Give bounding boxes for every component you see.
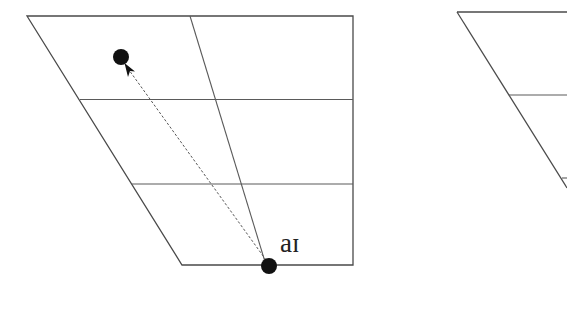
right-vowel-chart-partial — [457, 12, 567, 188]
trapezoid-outline — [27, 16, 353, 265]
center-gridline — [190, 16, 266, 265]
start-vowel-dot — [261, 258, 277, 274]
left-vowel-chart: aɪ — [27, 16, 353, 274]
end-vowel-dot — [113, 49, 129, 65]
diphthong-label: aɪ — [280, 228, 300, 258]
trapezoid-left-edge — [457, 12, 567, 188]
diagram-canvas: aɪ — [0, 0, 567, 313]
diphthong-trajectory-arrow — [129, 70, 266, 260]
arrowhead-icon — [125, 63, 136, 77]
